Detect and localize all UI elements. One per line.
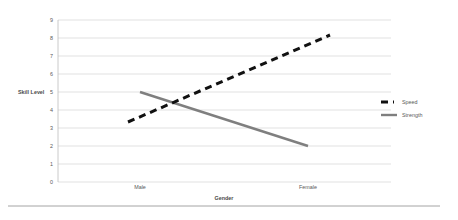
- y-tick-1: 1: [50, 161, 53, 167]
- line-chart: 9 8 7 6 5 4 3 2 1 0 Skill Level Male Fem…: [0, 0, 458, 220]
- y-tick-9: 9: [50, 17, 53, 23]
- y-tick-8: 8: [50, 35, 53, 41]
- x-category-labels: Male Female: [134, 184, 317, 190]
- gridlines: [58, 20, 391, 182]
- y-axis-title: Skill Level: [18, 89, 45, 95]
- chart-legend: Speed Strength: [381, 99, 422, 118]
- legend-label-speed: Speed: [402, 99, 418, 105]
- y-tick-3: 3: [50, 125, 53, 131]
- chart-container: 9 8 7 6 5 4 3 2 1 0 Skill Level Male Fem…: [0, 0, 458, 220]
- x-category-female: Female: [299, 184, 317, 190]
- x-category-male: Male: [134, 184, 146, 190]
- y-tick-0: 0: [50, 179, 53, 185]
- y-tick-labels: 9 8 7 6 5 4 3 2 1 0: [50, 17, 53, 185]
- y-tick-6: 6: [50, 71, 53, 77]
- y-tick-2: 2: [50, 143, 53, 149]
- legend-label-strength: Strength: [402, 112, 422, 118]
- y-tick-4: 4: [50, 107, 53, 113]
- x-axis-title: Gender: [215, 195, 235, 201]
- y-tick-7: 7: [50, 53, 53, 59]
- series-line-speed: [128, 35, 330, 122]
- y-tick-5: 5: [50, 89, 53, 95]
- series-line-strength: [140, 92, 308, 146]
